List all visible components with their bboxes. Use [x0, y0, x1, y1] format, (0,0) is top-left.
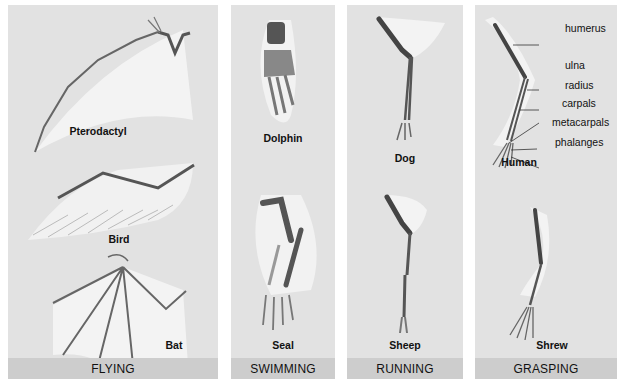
animal-label-shrew: Shrew [536, 339, 568, 351]
animal-label-sheep: Sheep [389, 339, 421, 351]
category-footer-flying: FLYING [8, 358, 218, 379]
category-footer-grasping: GRASPING [475, 358, 617, 379]
animal-label-bird: Bird [109, 233, 130, 245]
category-footer-running: RUNNING [347, 358, 463, 379]
animal-label-pterodactyl: Pterodactyl [69, 125, 126, 137]
forelimb-illustrations-running [347, 5, 463, 379]
panel-running: Dog Sheep RUNNING [347, 5, 463, 379]
forelimb-illustrations-flying [8, 5, 218, 379]
bone-label-metacarpals: metacarpals [552, 116, 609, 128]
animal-label-human: Human [501, 156, 537, 168]
forelimb-illustrations-swimming [231, 5, 335, 379]
bone-label-radius: radius [565, 79, 594, 91]
bone-label-phalanges: phalanges [555, 136, 603, 148]
bone-label-carpals: carpals [562, 97, 596, 109]
panel-swimming: Dolphin Seal SWIMMING [231, 5, 335, 379]
panel-flying: Pterodactyl Bird Bat FLYING [8, 5, 218, 379]
animal-label-dog: Dog [395, 152, 415, 164]
panel-grasping: humerus ulna radius carpals metacarpals … [475, 5, 617, 379]
animal-label-bat: Bat [166, 339, 183, 351]
animal-label-dolphin: Dolphin [263, 132, 302, 144]
bone-label-ulna: ulna [565, 59, 585, 71]
category-footer-swimming: SWIMMING [231, 358, 335, 379]
bone-label-humerus: humerus [565, 22, 606, 34]
animal-label-seal: Seal [272, 339, 294, 351]
forelimb-illustrations-grasping [475, 5, 617, 379]
